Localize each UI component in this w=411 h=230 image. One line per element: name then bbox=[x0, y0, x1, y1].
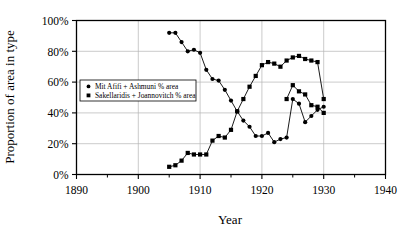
x-tick-label: 1910 bbox=[189, 184, 212, 196]
data-point-marker bbox=[173, 163, 177, 167]
data-point-marker bbox=[217, 78, 221, 82]
data-point-marker bbox=[266, 131, 270, 135]
legend-item-label: Mit Afifi + Ashmuni % area bbox=[95, 82, 179, 91]
data-point-marker bbox=[260, 63, 264, 67]
data-point-marker bbox=[309, 103, 313, 107]
y-tick-label: 40% bbox=[47, 107, 69, 119]
data-point-marker bbox=[309, 114, 313, 118]
data-point-marker bbox=[303, 92, 307, 96]
data-point-marker bbox=[297, 54, 301, 58]
data-point-marker bbox=[179, 40, 183, 44]
data-point-marker bbox=[186, 151, 190, 155]
data-point-marker bbox=[285, 58, 289, 62]
data-point-marker bbox=[210, 139, 214, 143]
data-point-marker bbox=[229, 128, 233, 132]
y-tick-label: 60% bbox=[47, 76, 69, 88]
data-point-marker bbox=[254, 134, 258, 138]
data-point-marker bbox=[223, 88, 227, 92]
data-point-marker bbox=[291, 83, 295, 87]
data-point-marker bbox=[291, 55, 295, 59]
data-point-marker bbox=[297, 89, 301, 93]
y-axis-title: Proportion of area in type bbox=[2, 30, 17, 164]
data-point-marker bbox=[204, 68, 208, 72]
data-point-marker bbox=[241, 97, 245, 101]
x-tick-label: 1890 bbox=[65, 184, 88, 196]
data-point-marker bbox=[198, 152, 202, 156]
data-point-marker bbox=[291, 97, 295, 101]
data-point-marker bbox=[285, 97, 289, 101]
legend-square-marker-icon bbox=[87, 94, 91, 98]
data-point-marker bbox=[278, 137, 282, 141]
data-point-marker bbox=[247, 85, 251, 89]
y-tick-label: 100% bbox=[42, 15, 69, 27]
data-point-marker bbox=[297, 102, 301, 106]
data-point-marker bbox=[167, 165, 171, 169]
data-point-marker bbox=[223, 135, 227, 139]
y-tick-label: 0% bbox=[53, 169, 69, 181]
data-point-marker bbox=[254, 74, 258, 78]
x-tick-label: 1920 bbox=[250, 184, 273, 196]
data-point-marker bbox=[186, 49, 190, 53]
data-point-marker bbox=[322, 105, 326, 109]
data-point-marker bbox=[303, 57, 307, 61]
data-point-marker bbox=[235, 109, 239, 113]
chart-legend: Mit Afifi + Ashmuni % areaSakellaridis +… bbox=[80, 80, 196, 101]
data-point-marker bbox=[192, 48, 196, 52]
data-point-marker bbox=[322, 111, 326, 115]
x-tick-label: 1900 bbox=[127, 184, 150, 196]
data-point-marker bbox=[173, 31, 177, 35]
data-point-marker bbox=[167, 31, 171, 35]
data-point-marker bbox=[217, 134, 221, 138]
data-point-marker bbox=[303, 120, 307, 124]
legend-circle-marker-icon bbox=[87, 85, 91, 89]
data-point-marker bbox=[204, 152, 208, 156]
data-point-marker bbox=[285, 135, 289, 139]
data-point-marker bbox=[315, 105, 319, 109]
data-point-marker bbox=[247, 125, 251, 129]
proportion-of-area-line-chart: 189019001910192019301940 0%20%40%60%80%1… bbox=[0, 0, 411, 230]
data-point-marker bbox=[179, 159, 183, 163]
x-axis-title: Year bbox=[218, 212, 243, 227]
data-point-marker bbox=[241, 119, 245, 123]
legend-item-label: Sakellaridis + Joannovitch % area bbox=[95, 91, 196, 100]
x-tick-label: 1930 bbox=[312, 184, 335, 196]
y-tick-label: 80% bbox=[47, 46, 69, 58]
data-point-marker bbox=[322, 97, 326, 101]
data-point-marker bbox=[309, 58, 313, 62]
data-point-marker bbox=[198, 51, 202, 55]
chart-figure: 189019001910192019301940 0%20%40%60%80%1… bbox=[0, 0, 411, 230]
data-point-marker bbox=[210, 77, 214, 81]
y-tick-label: 20% bbox=[47, 138, 69, 150]
data-point-marker bbox=[260, 134, 264, 138]
data-point-marker bbox=[229, 98, 233, 102]
data-point-marker bbox=[266, 60, 270, 64]
x-tick-label: 1940 bbox=[374, 184, 397, 196]
data-point-marker bbox=[278, 65, 282, 69]
data-point-marker bbox=[272, 62, 276, 66]
data-point-marker bbox=[315, 60, 319, 64]
data-point-marker bbox=[192, 152, 196, 156]
data-point-marker bbox=[272, 140, 276, 144]
